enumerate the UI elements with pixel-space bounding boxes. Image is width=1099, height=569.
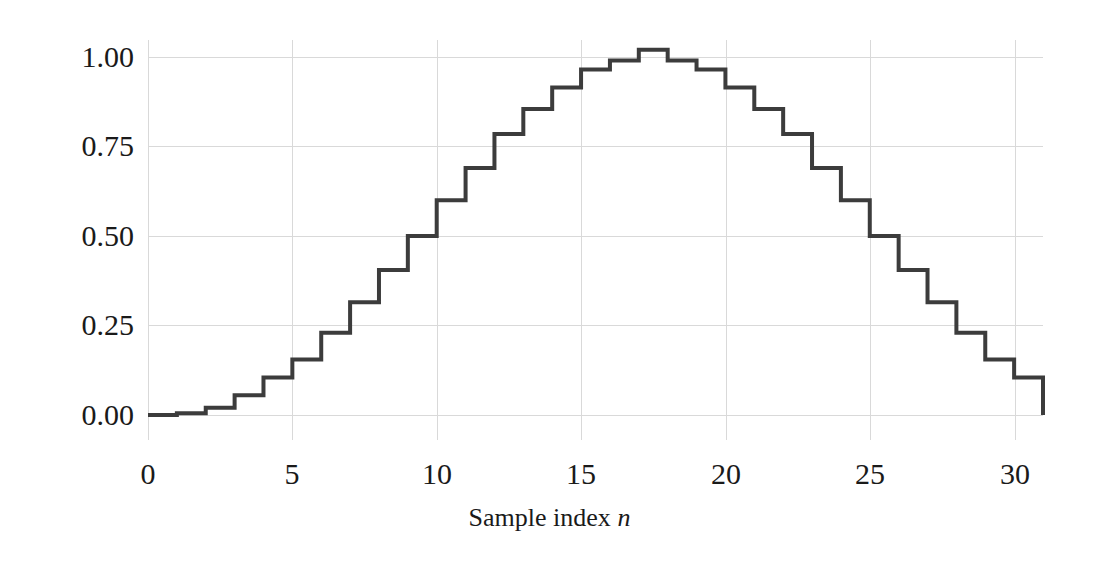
xtick-label-0: 0 — [108, 458, 188, 490]
xtick-label-10: 10 — [397, 458, 477, 490]
xtick-label-20: 20 — [686, 458, 766, 490]
ytick-label-0.00: 0.00 — [30, 400, 134, 430]
xtick-label-30: 30 — [975, 458, 1055, 490]
ytick-label-0.75: 0.75 — [30, 131, 134, 161]
xtick-label-15: 15 — [541, 458, 621, 490]
x-axis-label-text: Sample index — [469, 503, 618, 532]
ytick-label-0.50: 0.50 — [30, 221, 134, 251]
xtick-label-25: 25 — [830, 458, 910, 490]
x-axis-label-symbol: n — [617, 503, 630, 532]
xtick-label-5: 5 — [252, 458, 332, 490]
ytick-label-0.25: 0.25 — [30, 310, 134, 340]
ytick-label-1.00: 1.00 — [30, 42, 134, 72]
figure-root: 1.00 0.75 0.50 0.25 0.00 0 5 10 15 20 25… — [0, 0, 1099, 569]
x-axis-label: Sample index n — [0, 503, 1099, 533]
step-path — [148, 50, 1043, 415]
